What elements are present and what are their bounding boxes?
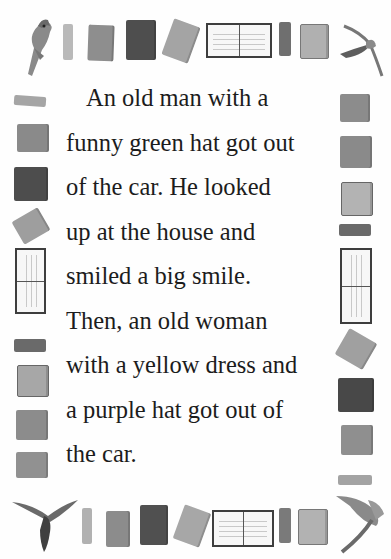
book-spine-icon (14, 95, 47, 107)
story-line: the car. (66, 432, 346, 477)
story-line: funny green hat got out (66, 121, 346, 166)
book-icon (12, 207, 51, 245)
book-icon (17, 365, 49, 397)
book-spine-icon (14, 339, 46, 352)
story-line: smiled a big smile. (66, 254, 346, 299)
story-line: Then, an old woman (66, 299, 346, 344)
bird-flying-icon (336, 18, 386, 78)
book-icon (106, 511, 130, 547)
story-line: with a yellow dress and (66, 343, 346, 388)
book-spine-icon (279, 508, 291, 543)
book-icon (140, 505, 168, 545)
book-spine-icon (338, 475, 372, 485)
book-icon (161, 18, 200, 63)
book-icon (126, 20, 156, 60)
book-icon (14, 167, 48, 201)
book-icon (300, 24, 329, 59)
open-book-icon (206, 23, 272, 58)
book-spine-icon (63, 24, 73, 60)
book-icon (173, 504, 212, 547)
open-book-icon (15, 248, 46, 314)
story-line: of the car. He looked (66, 165, 346, 210)
book-spine-icon (279, 22, 291, 56)
book-icon (16, 410, 48, 440)
book-icon (87, 25, 114, 62)
story-line: An old man with a (66, 76, 346, 121)
book-icon (298, 509, 328, 545)
story-text: An old man with a funny green hat got ou… (66, 76, 346, 477)
book-icon (16, 452, 48, 478)
open-book-icon (212, 510, 274, 547)
storybook-page: An old man with a funny green hat got ou… (0, 0, 391, 559)
book-spine-icon (82, 508, 92, 544)
bird-flying-icon (332, 490, 388, 556)
bird-flying-icon (10, 496, 78, 552)
book-icon (17, 124, 49, 152)
story-line: up at the house and (66, 210, 346, 255)
parrot-icon (14, 12, 54, 82)
story-line: a purple hat got out of (66, 388, 346, 433)
